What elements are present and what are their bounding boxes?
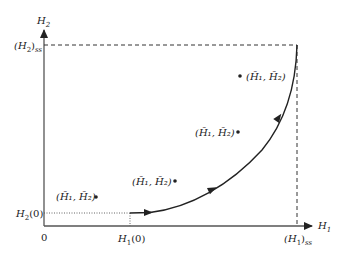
diagram-canvas: H2 H1 0 (H2)ss H2(0) H1(0) (H1)ss (H̄₁, … [0,0,344,253]
point-2: (H̄₁, H̄₂) [132,176,177,187]
point-3: (H̄₁, H̄₂) [195,127,240,138]
h2-ss-label: (H2)ss [14,40,43,54]
svg-text:(H̄₁, H̄₂): (H̄₁, H̄₂) [195,127,235,138]
h2-0-label: H2(0) [15,208,43,222]
h1-0-label: H1(0) [117,233,145,247]
svg-text:(H̄₁, H̄₂): (H̄₁, H̄₂) [246,71,286,82]
x-axis-label: H1 [317,220,331,234]
arrow-icon [144,209,153,216]
origin-label: 0 [41,232,47,243]
y-axis-label: H2 [36,15,51,29]
point-4: (H̄₁, H̄₂) [238,71,286,82]
h1-ss-label: (H1)ss [284,233,313,247]
svg-text:(H̄₁, H̄₂): (H̄₁, H̄₂) [132,176,172,187]
point-1: (H̄₁, H̄₂) [56,191,98,202]
svg-text:(H̄₁, H̄₂): (H̄₁, H̄₂) [56,191,96,202]
